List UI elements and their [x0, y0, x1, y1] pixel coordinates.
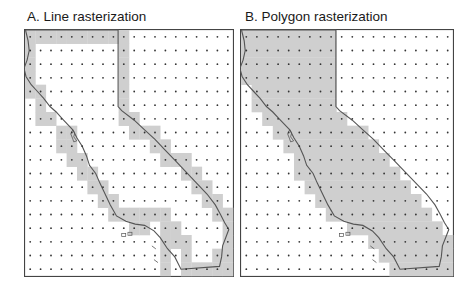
panel-a-title: A. Line rasterization	[27, 9, 146, 24]
panel-b-title: B. Polygon rasterization	[245, 9, 388, 24]
polygon-rasterization-panel	[240, 29, 454, 277]
line-rasterization-panel	[24, 29, 234, 277]
